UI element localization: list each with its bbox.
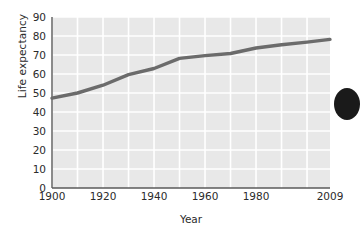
y-axis-tick-label: 30 bbox=[6, 126, 46, 137]
x-axis-tick-label: 1940 bbox=[129, 191, 179, 202]
x-axis-tick-label: 1920 bbox=[78, 191, 128, 202]
x-axis-tick-label: 1960 bbox=[180, 191, 230, 202]
page-bullet-dot bbox=[334, 88, 360, 120]
x-axis-tick-label: 2009 bbox=[305, 191, 355, 202]
x-axis-tick-label: 1900 bbox=[27, 191, 77, 202]
y-axis-title: Life expectancy bbox=[16, 0, 28, 126]
x-axis-title: Year bbox=[52, 213, 330, 225]
x-axis-tick-label: 1980 bbox=[231, 191, 281, 202]
y-axis-tick-label: 20 bbox=[6, 145, 46, 156]
y-axis-tick-label: 10 bbox=[6, 164, 46, 175]
